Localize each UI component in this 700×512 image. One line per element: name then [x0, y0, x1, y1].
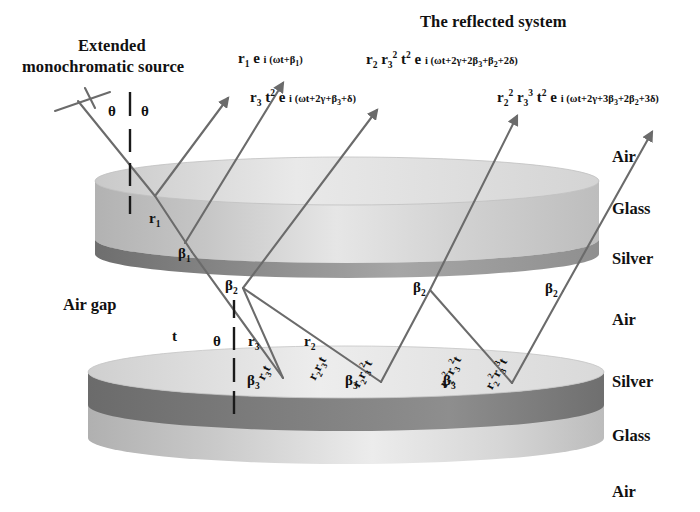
material-label-air-bottom: Air	[612, 482, 636, 502]
material-label-silver-top: Silver	[612, 249, 653, 269]
material-label-glass-top: Glass	[612, 199, 651, 219]
amplitude-r3: r3	[248, 333, 259, 352]
gap-thickness-label: t	[172, 328, 177, 345]
amplitude-r1: r1	[149, 210, 160, 229]
formula-beam-4: r22 r33 t2 e i (ωt+2γ+3β3+2β2+3δ)	[497, 88, 659, 108]
material-label-glass-bottom: Glass	[612, 426, 651, 446]
theta-gap: θ	[213, 333, 221, 350]
bottom-plate	[88, 346, 604, 464]
formula-beam-1: r1 e i (ωt+β1)	[238, 50, 303, 69]
air-gap-label: Air gap	[63, 295, 116, 315]
diagram-canvas: The reflected system Extended monochroma…	[0, 0, 700, 512]
source-label-line2: monochromatic source	[22, 57, 184, 77]
phase-beta1: β1	[178, 245, 191, 264]
material-label-air-gap: Air	[612, 310, 636, 330]
amplitude-r2: r2	[304, 333, 315, 352]
phase-beta2-b: β2	[413, 279, 426, 298]
formula-beam-3: r2 r32 t2 e i (ωt+2γ+2β3+β2+2δ)	[366, 50, 518, 70]
formula-beam-2: r3 t2 e i (ωt+2γ+β3+δ)	[250, 88, 356, 108]
theta-reflection: θ	[141, 103, 149, 120]
phase-beta2-a: β2	[225, 277, 238, 296]
theta-incidence: θ	[108, 103, 116, 120]
diagram-title: The reflected system	[420, 12, 566, 32]
material-label-air-top: Air	[612, 147, 636, 167]
phase-beta2-c: β2	[545, 280, 558, 299]
material-label-silver-bottom: Silver	[612, 372, 653, 392]
source-label-line1: Extended	[78, 36, 146, 56]
